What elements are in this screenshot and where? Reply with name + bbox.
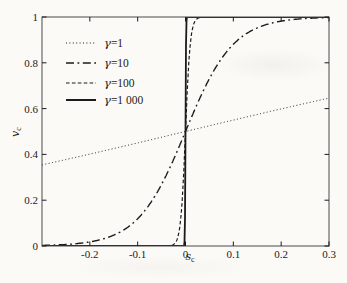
gamma-symbol: γ xyxy=(104,76,111,90)
gamma-symbol: γ xyxy=(104,36,111,50)
chart-canvas: -0.2-0.100.10.20.300.20.40.60.81 xyxy=(0,0,347,283)
x-tick-label: 0.3 xyxy=(322,248,336,260)
y-tick-label: 0.2 xyxy=(24,194,38,206)
legend-item-gamma-1000: γ=1 000 xyxy=(64,93,143,107)
legend-item-gamma-1: γ=1 xyxy=(64,36,143,50)
legend-label: γ=10 xyxy=(104,56,129,70)
legend-line-dashed-icon xyxy=(64,79,98,87)
legend-label: γ=1 xyxy=(104,36,123,50)
x-tick-label: 0.1 xyxy=(226,248,240,260)
gamma-value: =100 xyxy=(111,77,135,89)
legend-line-dash-dot-icon xyxy=(64,59,98,67)
legend-line-dotted-icon xyxy=(64,39,98,47)
legend-line-solid-icon xyxy=(64,96,98,104)
legend: γ=1 γ=10 γ=100 γ=1 000 xyxy=(64,36,143,113)
y-tick-label: 0.6 xyxy=(24,103,38,115)
x-tick-label: -0.2 xyxy=(81,248,98,260)
x-axis-label: sc xyxy=(178,250,202,264)
gamma-symbol: γ xyxy=(104,56,111,70)
y-axis-label: vc xyxy=(9,120,23,144)
gamma-value: =10 xyxy=(111,57,129,69)
legend-item-gamma-10: γ=10 xyxy=(64,56,143,70)
y-tick-label: 1 xyxy=(33,11,39,23)
y-tick-label: 0.4 xyxy=(24,148,38,160)
legend-label: γ=100 xyxy=(104,76,135,90)
gamma-symbol: γ xyxy=(104,93,111,107)
y-tick-label: 0 xyxy=(33,240,39,252)
y-tick-label: 0.8 xyxy=(24,57,38,69)
legend-item-gamma-100: γ=100 xyxy=(64,76,143,90)
x-tick-label: -0.1 xyxy=(129,248,146,260)
gamma-value: =1 xyxy=(111,37,123,49)
figure: -0.2-0.100.10.20.300.20.40.60.81 γ=1 γ=1… xyxy=(0,0,347,283)
legend-label: γ=1 000 xyxy=(104,93,143,107)
x-tick-label: 0.2 xyxy=(274,248,288,260)
gamma-value: =1 000 xyxy=(111,94,143,106)
